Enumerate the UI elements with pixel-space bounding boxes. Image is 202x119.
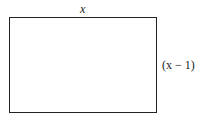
height-label: (x − 1) [162, 59, 195, 71]
width-label: x [80, 3, 85, 15]
rectangle [9, 17, 157, 113]
